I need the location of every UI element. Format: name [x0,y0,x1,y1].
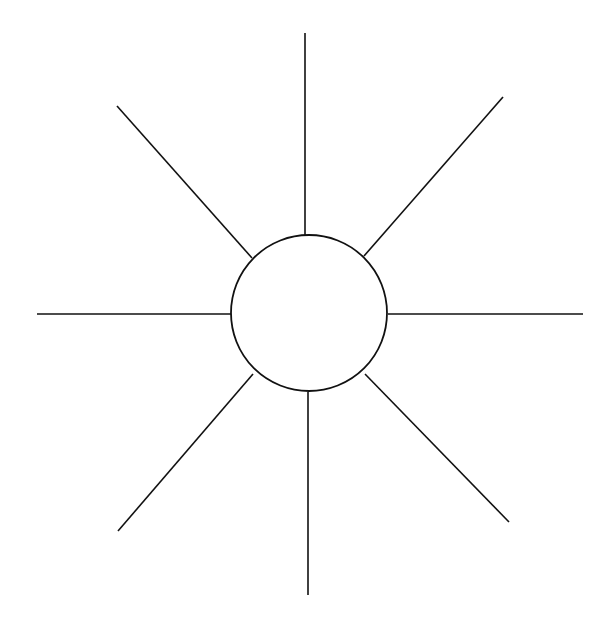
center-circle [231,235,387,391]
spoke-south-east [365,374,509,522]
spoke-north-west [117,106,252,258]
spoke-north-east [364,97,503,256]
spoke-south-west [118,374,253,531]
sun-diagram-canvas [0,0,614,644]
sun-diagram [0,0,614,644]
